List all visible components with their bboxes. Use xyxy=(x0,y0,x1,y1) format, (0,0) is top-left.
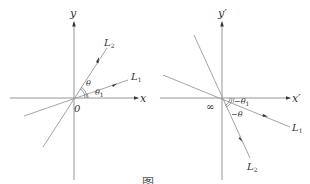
diagram-canvas: y x 0 L2 L1 θ θ1 y′ x′ ∞ −θ1 −θ L1 L2 xyxy=(0,0,310,184)
origin-label: 0 xyxy=(74,103,81,114)
y-prime-axis-label: y′ xyxy=(217,7,227,20)
theta-label: θ xyxy=(86,79,91,88)
l2-direction-arrow-icon xyxy=(96,57,99,64)
l1-prime-direction-arrow-icon xyxy=(263,114,269,117)
line-l2 xyxy=(43,48,107,147)
neg-theta-label: −θ xyxy=(231,110,243,119)
x-prime-axis-label: x′ xyxy=(292,92,301,105)
l1-label: L1 xyxy=(130,71,141,83)
line-l1-prime xyxy=(163,75,290,127)
right-diagram: y′ x′ ∞ −θ1 −θ L1 L2 xyxy=(160,7,302,180)
l1-prime-label: L1 xyxy=(291,122,302,134)
left-diagram: y x 0 L2 L1 θ θ1 xyxy=(10,7,147,180)
theta1-label: θ1 xyxy=(95,88,104,98)
l2-label: L2 xyxy=(103,37,115,49)
y-axis-label: y xyxy=(69,7,77,20)
infinity-origin-label: ∞ xyxy=(206,101,214,112)
figure-caption: 图 xyxy=(128,176,168,184)
x-axis-label: x xyxy=(140,92,147,105)
l2-prime-label: L2 xyxy=(246,161,258,173)
l1-direction-arrow-icon xyxy=(112,84,117,88)
